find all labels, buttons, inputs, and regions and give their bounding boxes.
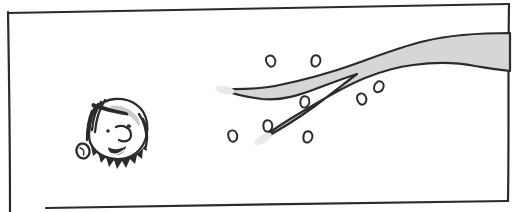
panel-border-top (8, 4, 509, 13)
child-head (75, 99, 147, 169)
leaf (302, 131, 313, 144)
leaf (356, 92, 368, 106)
eye-left (106, 129, 110, 132)
tree-branch (214, 33, 510, 148)
comic-panel (0, 0, 518, 212)
leaf (227, 129, 239, 142)
comic-panel-drawing (0, 0, 518, 212)
leaf (310, 55, 321, 68)
panel-border-bottom (46, 201, 508, 208)
leaf (264, 54, 277, 68)
panel-border-left (8, 12, 10, 212)
lower-twig-tip-fade (252, 130, 273, 147)
panel-border (8, 4, 509, 212)
leaf (263, 120, 272, 131)
leaf (372, 80, 385, 94)
leaf (300, 96, 310, 108)
